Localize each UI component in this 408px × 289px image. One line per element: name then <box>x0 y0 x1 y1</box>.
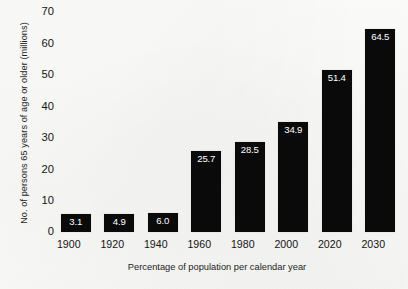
bar-slot: 64.5 <box>365 12 395 232</box>
bar-slot: 28.5 <box>235 12 265 232</box>
x-axis-tick-label: 1900 <box>47 238 91 250</box>
x-axis-tick-label: 1920 <box>90 238 134 250</box>
x-axis-title: Percentage of population per calendar ye… <box>0 262 408 272</box>
y-axis-tick-label: 50 <box>24 69 54 80</box>
y-axis-tick-label: 20 <box>24 164 54 175</box>
bar: 34.9 <box>278 122 308 232</box>
bar: 28.5 <box>235 142 265 232</box>
bar: 51.4 <box>322 70 352 232</box>
y-axis-tick-label: 40 <box>24 101 54 112</box>
y-axis-tick-label: 0 <box>24 226 54 237</box>
bar-value-label: 6.0 <box>148 216 178 226</box>
bar-slot: 25.7 <box>191 12 221 232</box>
y-axis-tick-label: 60 <box>24 38 54 49</box>
bar: 4.9 <box>104 214 134 232</box>
bar-value-label: 4.9 <box>104 217 134 227</box>
bar-slot: 34.9 <box>278 12 308 232</box>
bar-value-label: 51.4 <box>322 73 352 83</box>
bar-value-label: 34.9 <box>278 125 308 135</box>
bar-value-label: 25.7 <box>191 154 221 164</box>
x-axis-tick-label: 2020 <box>308 238 352 250</box>
bar-slot: 3.1 <box>61 12 91 232</box>
bar-slot: 51.4 <box>322 12 352 232</box>
y-axis-tick-label: 30 <box>24 132 54 143</box>
x-axis-tick-label: 1980 <box>221 238 265 250</box>
bar-slot: 6.0 <box>148 12 178 232</box>
bar: 25.7 <box>191 151 221 232</box>
bar: 6.0 <box>148 213 178 232</box>
x-axis-tick-label: 2030 <box>351 238 395 250</box>
y-axis-tick-label: 70 <box>24 6 54 17</box>
bar-value-label: 64.5 <box>365 32 395 42</box>
x-axis-tick-label: 1940 <box>134 238 178 250</box>
chart-figure: No. of persons 65 years of age or older … <box>0 0 408 289</box>
x-axis-tick-labels: 19001920194019601980200020202030 <box>54 238 402 254</box>
plot-area: 3.14.96.025.728.534.951.464.5 <box>54 12 402 232</box>
y-axis-tick-label: 10 <box>24 195 54 206</box>
bar: 3.1 <box>61 214 91 232</box>
bar: 64.5 <box>365 29 395 232</box>
bar-value-label: 3.1 <box>61 217 91 227</box>
x-axis-tick-label: 2000 <box>264 238 308 250</box>
bar-slot: 4.9 <box>104 12 134 232</box>
x-axis-tick-label: 1960 <box>177 238 221 250</box>
bar-value-label: 28.5 <box>235 145 265 155</box>
